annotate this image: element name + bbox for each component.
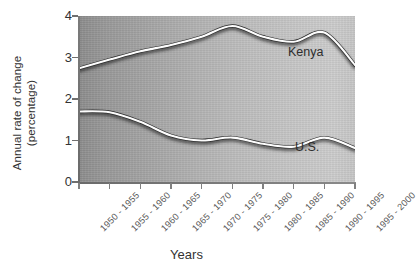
- x-axis-line: [78, 182, 356, 184]
- y-tick-label: 4: [50, 8, 72, 23]
- series-lines: [79, 16, 355, 182]
- x-tick-mark: [354, 183, 356, 189]
- series-label-kenya: Kenya: [288, 45, 323, 59]
- x-tick-mark: [324, 183, 326, 189]
- y-tick-label: 2: [50, 91, 72, 106]
- y-tick-label: 3: [50, 50, 72, 65]
- y-tick-mark: [72, 57, 78, 59]
- x-tick-mark: [232, 183, 234, 189]
- x-tick-mark: [293, 183, 295, 189]
- x-tick-mark: [78, 183, 80, 189]
- y-tick-label: 1: [50, 133, 72, 148]
- y-tick-mark: [72, 140, 78, 142]
- y-tick-mark: [72, 181, 78, 183]
- y-axis-title: Annual rate of change (percentage): [11, 23, 45, 203]
- y-tick-mark: [72, 98, 78, 100]
- x-tick-mark: [170, 183, 172, 189]
- x-tick-mark: [201, 183, 203, 189]
- x-tick-mark: [109, 183, 111, 189]
- x-tick-mark: [262, 183, 264, 189]
- plot-area: [79, 16, 355, 182]
- y-tick-mark: [72, 15, 78, 17]
- x-tick-mark: [140, 183, 142, 189]
- y-axis-line: [78, 16, 80, 183]
- x-axis-title: Years: [0, 247, 373, 262]
- series-label-us: U.S.: [295, 140, 319, 154]
- y-tick-label: 0: [50, 174, 72, 189]
